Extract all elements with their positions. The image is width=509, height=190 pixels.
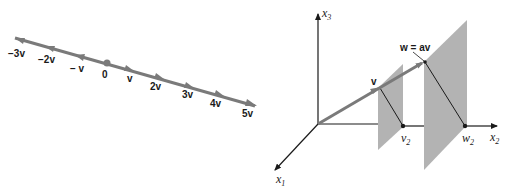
label-x2: x2 bbox=[489, 130, 499, 146]
arrow-pos5-icon bbox=[245, 99, 257, 106]
arrow-pos4-icon bbox=[214, 90, 224, 96]
w-label-leader bbox=[413, 52, 424, 61]
3d-projection-figure: x3 x2 x1 v w = av v2 w2 bbox=[275, 6, 499, 188]
label-neg3v: −3v bbox=[8, 48, 25, 59]
label-3v: 3v bbox=[182, 89, 194, 100]
label-neg1v: − v bbox=[70, 63, 85, 74]
diagram-canvas: −3v −2v − v 0 v 2v 3v 4v 5v bbox=[0, 0, 509, 190]
label-4v: 4v bbox=[210, 98, 222, 109]
origin-dot bbox=[104, 60, 111, 67]
label-w2: w2 bbox=[462, 131, 474, 147]
point-w2 bbox=[463, 124, 467, 128]
label-5v: 5v bbox=[242, 108, 254, 119]
label-2v: 2v bbox=[150, 81, 162, 92]
label-v: v bbox=[127, 73, 133, 84]
arrow-pos3-icon bbox=[184, 82, 194, 88]
arrow-neg1-icon bbox=[75, 54, 85, 61]
label-zero: 0 bbox=[102, 69, 108, 80]
label-x1: x1 bbox=[275, 172, 285, 188]
arrow-neg2-icon bbox=[45, 46, 55, 52]
x1-axis bbox=[275, 124, 318, 170]
scalar-multiples-figure: −3v −2v − v 0 v 2v 3v 4v 5v bbox=[8, 38, 257, 119]
arrow-pos1-icon bbox=[124, 65, 134, 71]
point-v2 bbox=[401, 124, 405, 128]
arrow-neg3-icon bbox=[15, 38, 25, 44]
vector-w bbox=[318, 63, 422, 124]
label-v2: v2 bbox=[401, 131, 410, 147]
label-w-equals-av: w = av bbox=[399, 42, 431, 53]
label-neg2v: −2v bbox=[38, 54, 55, 65]
arrow-pos2-icon bbox=[154, 73, 164, 79]
label-vector-v: v bbox=[371, 76, 377, 87]
label-x3: x3 bbox=[321, 6, 331, 22]
